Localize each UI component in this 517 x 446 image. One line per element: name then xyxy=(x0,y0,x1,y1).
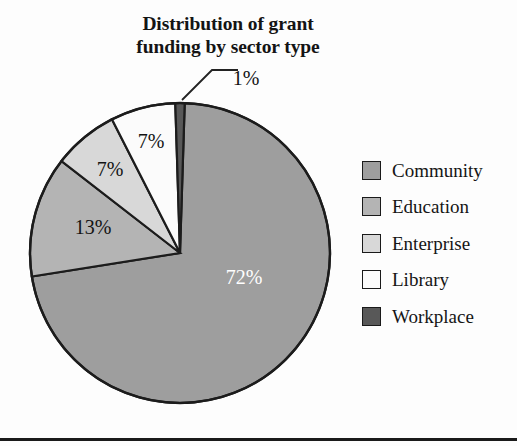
pie-svg xyxy=(0,0,360,430)
pie-plot-area: 1% 72% 13% 7% 7% xyxy=(0,0,360,430)
legend-swatch-enterprise xyxy=(362,234,381,253)
legend-item-community[interactable]: Community xyxy=(362,152,512,189)
pie-chart-figure: Distribution of grant funding by sector … xyxy=(0,0,517,446)
leader-line-workplace xyxy=(182,70,238,100)
legend-label-enterprise: Enterprise xyxy=(392,234,470,253)
slice-value-enterprise: 7% xyxy=(97,158,124,181)
legend: Community Education Enterprise Library W… xyxy=(362,152,512,335)
slice-value-library: 7% xyxy=(138,130,165,153)
legend-item-education[interactable]: Education xyxy=(362,189,512,226)
slice-value-workplace: 1% xyxy=(233,67,260,90)
slice-value-community: 72% xyxy=(226,266,263,289)
legend-label-workplace: Workplace xyxy=(392,307,474,326)
legend-swatch-library xyxy=(362,270,381,289)
legend-item-library[interactable]: Library xyxy=(362,262,512,299)
slice-value-education: 13% xyxy=(75,216,112,239)
legend-swatch-workplace xyxy=(362,307,381,326)
legend-swatch-community xyxy=(362,161,381,180)
legend-item-workplace[interactable]: Workplace xyxy=(362,298,512,335)
legend-label-community: Community xyxy=(392,161,483,180)
legend-label-education: Education xyxy=(392,197,469,216)
bottom-divider xyxy=(0,438,517,441)
legend-label-library: Library xyxy=(392,270,449,289)
legend-swatch-education xyxy=(362,197,381,216)
legend-item-enterprise[interactable]: Enterprise xyxy=(362,225,512,262)
